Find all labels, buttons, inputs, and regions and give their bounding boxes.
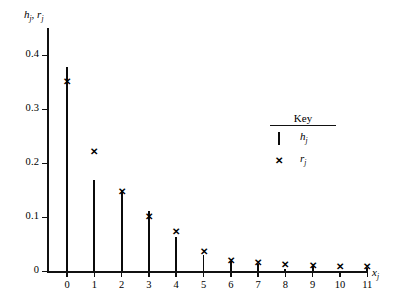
x-axis-tick	[148, 271, 150, 277]
x-axis-tick-label: 2	[114, 279, 130, 290]
legend-row-h: hj	[266, 128, 338, 148]
y-axis-title: hj, rj	[24, 8, 43, 23]
bar	[175, 237, 177, 271]
cross-marker: ✕	[117, 187, 126, 196]
legend-row-r: ✕ rj	[266, 150, 338, 170]
legend-title: Key	[270, 112, 336, 126]
cross-marker: ✕	[336, 262, 345, 271]
y-axis-tick	[42, 109, 48, 110]
cross-marker: ✕	[254, 258, 263, 267]
legend-label-h: hj	[292, 130, 308, 145]
cross-marker: ✕	[281, 260, 290, 269]
legend-bar-symbol-icon	[266, 131, 292, 144]
y-axis-tick	[42, 55, 48, 56]
bar	[203, 255, 205, 272]
legend-label-h-sub: j	[306, 137, 308, 146]
x-axis-tick	[230, 271, 232, 277]
y-axis-tick-label: 0.4	[6, 48, 39, 59]
y-axis-title-r-sub: j	[41, 14, 43, 23]
x-axis-tick-label: 6	[223, 279, 239, 290]
x-axis-tick	[285, 271, 287, 277]
legend-label-r-sub: j	[304, 159, 306, 168]
legend-cross-symbol-icon: ✕	[266, 155, 292, 166]
x-axis-tick-label: 0	[59, 279, 75, 290]
x-axis-tick	[94, 271, 96, 277]
x-axis-tick-label: 3	[141, 279, 157, 290]
bar	[121, 191, 123, 271]
x-axis-tick	[257, 271, 259, 277]
y-axis-tick	[42, 271, 48, 272]
x-axis-tick	[203, 271, 205, 277]
y-axis-tick	[42, 163, 48, 164]
cross-marker: ✕	[199, 247, 208, 256]
y-axis-tick	[42, 217, 48, 218]
x-axis-title-x-sub: j	[377, 272, 379, 281]
x-axis-tick-label: 4	[168, 279, 184, 290]
x-axis-tick	[339, 271, 341, 277]
y-axis-tick-label: 0.3	[6, 102, 39, 113]
cross-marker: ✕	[363, 262, 372, 271]
y-axis-tick-label: 0	[6, 264, 39, 275]
x-axis-tick	[121, 271, 123, 277]
bar	[93, 180, 95, 272]
cross-marker: ✕	[308, 261, 317, 270]
cross-marker: ✕	[144, 212, 153, 221]
y-axis-tick-label: 0.2	[6, 156, 39, 167]
cross-marker: ✕	[226, 256, 235, 265]
legend-key: Key hj ✕ rj	[266, 112, 338, 170]
y-axis-line	[47, 28, 49, 273]
y-axis-tick-label: 0.1	[6, 210, 39, 221]
x-axis-tick	[312, 271, 314, 277]
probability-histogram-chart: hj, rj xj 00.10.20.30.4 01234567891011 ✕…	[0, 0, 397, 307]
cross-marker: ✕	[63, 77, 72, 86]
x-axis-tick-label: 10	[332, 279, 348, 290]
x-axis-tick-label: 8	[277, 279, 293, 290]
x-axis-tick-label: 11	[359, 279, 375, 290]
x-axis-tick-label: 1	[86, 279, 102, 290]
x-axis-tick	[367, 271, 369, 277]
x-axis-tick-label: 9	[305, 279, 321, 290]
x-axis-tick	[66, 271, 68, 277]
cross-marker: ✕	[172, 227, 181, 236]
x-axis-tick	[175, 271, 177, 277]
bar	[66, 67, 68, 271]
plot-area: hj, rj xj 00.10.20.30.4 01234567891011 ✕…	[0, 0, 397, 307]
cross-marker: ✕	[90, 147, 99, 156]
x-axis-tick-label: 5	[196, 279, 212, 290]
legend-label-r: rj	[292, 152, 306, 167]
x-axis-tick-label: 7	[250, 279, 266, 290]
